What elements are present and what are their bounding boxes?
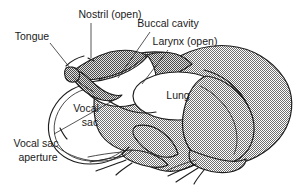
label-vocal-sac-aperture-line1: Vocal sac (14, 137, 59, 149)
label-lung: Lung (166, 89, 190, 101)
frog-body-group (48, 45, 291, 184)
label-vocal-sac-aperture-line2: aperture (18, 151, 57, 163)
frog-respiration-diagram: Tongue Nostril (open) Buccal cavity Lary… (0, 0, 300, 193)
tongue-root (65, 67, 80, 82)
label-larynx: Larynx (open) (153, 35, 218, 47)
label-tongue: Tongue (15, 30, 50, 42)
leader-tongue (50, 43, 70, 68)
label-vocal-sac-line1: Vocal (73, 102, 99, 114)
label-vocal-sac-line2: sac (82, 116, 98, 128)
label-buccal-cavity: Buccal cavity (137, 17, 199, 29)
diagram-canvas: Tongue Nostril (open) Buccal cavity Lary… (0, 0, 300, 193)
snout-edge (66, 56, 84, 66)
label-nostril: Nostril (open) (78, 8, 141, 20)
